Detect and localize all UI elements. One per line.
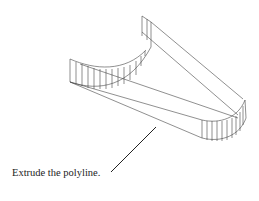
cutout-hatching: [70, 51, 145, 89]
front-bottom-edge: [70, 82, 202, 138]
top-inner-edge: [142, 32, 238, 115]
back-wall: [142, 16, 151, 47]
cutout-crossing-line: [80, 64, 238, 118]
solid-wireframe: [70, 16, 246, 141]
rounded-end-hatching: [202, 100, 246, 141]
leader-line: [111, 127, 156, 172]
top-outer-edge: [151, 22, 243, 99]
rounded-end-line: [70, 82, 202, 120]
rounded-end-top: [202, 100, 245, 121]
caption-text: Extrude the polyline.: [12, 167, 100, 178]
